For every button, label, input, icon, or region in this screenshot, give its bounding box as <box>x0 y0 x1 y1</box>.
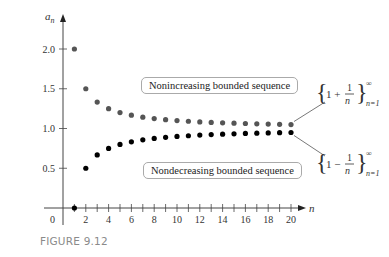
lower-sequence-point <box>254 131 259 136</box>
svg-text:∞: ∞ <box>366 79 372 88</box>
lower-sequence-point <box>266 130 271 135</box>
upper-sequence-point <box>288 122 293 127</box>
upper-sequence-point <box>266 121 271 126</box>
x-tick-label: 20 <box>286 214 296 225</box>
x-tick-label: 4 <box>106 214 111 225</box>
lower-sequence-point <box>152 136 157 141</box>
upper-sequence-point <box>197 119 202 124</box>
upper-sequence-point <box>277 122 282 127</box>
upper-sequence-point <box>243 121 248 126</box>
lower-sequence-point <box>209 132 214 137</box>
upper-sequence-point <box>117 110 122 115</box>
upper-sequence-point <box>174 118 179 123</box>
svg-text:n: n <box>345 165 350 176</box>
upper-sequence-point <box>106 106 111 111</box>
x-tick-label: 18 <box>263 214 273 225</box>
upper-sequence-point <box>209 120 214 125</box>
upper-sequence-point <box>72 46 77 51</box>
lower-sequence-point <box>163 135 168 140</box>
svg-text:n: n <box>345 95 350 106</box>
lower-sequence-point <box>106 146 111 151</box>
y-axis-label: an <box>45 10 55 25</box>
lower-sequence-point <box>243 131 248 136</box>
lower-sequence-point <box>72 205 77 210</box>
lower-formula-glyph: { 1 − 1 n } ∞ n=1 <box>316 146 388 182</box>
nondecreasing-label: Nondecreasing bounded sequence <box>143 162 302 179</box>
y-axis-arrow-icon <box>60 14 66 22</box>
svg-text:1 +: 1 + <box>326 88 340 100</box>
upper-sequence-point <box>129 113 134 118</box>
x-tick-label: 6 <box>129 214 134 225</box>
y-tick-label: 0.5 <box>43 163 56 174</box>
upper-sequence-point <box>163 117 168 122</box>
origin-label: 0 <box>50 214 55 225</box>
x-tick-label: 2 <box>83 214 88 225</box>
lower-sequence-point <box>197 132 202 137</box>
upper-sequence-point <box>83 86 88 91</box>
y-tick-label: 2.0 <box>43 44 56 55</box>
x-axis-arrow-icon <box>298 205 306 211</box>
x-tick-label: 10 <box>172 214 182 225</box>
upper-sequence-point <box>231 121 236 126</box>
svg-text:1: 1 <box>347 152 352 163</box>
upper-formula-glyph: { 1 + 1 n } ∞ n=1 <box>316 76 388 112</box>
figure: ann024681012141618200.51.01.52.0 Nonincr… <box>0 0 389 257</box>
lower-sequence-point <box>186 133 191 138</box>
lower-sequence-point <box>129 139 134 144</box>
svg-text:n=1: n=1 <box>366 99 379 108</box>
x-tick-label: 8 <box>152 214 157 225</box>
nonincreasing-label: Nonincreasing bounded sequence <box>141 77 298 94</box>
upper-sequence-point <box>152 116 157 121</box>
upper-sequence-point <box>220 120 225 125</box>
lower-sequence-point <box>83 166 88 171</box>
x-tick-label: 14 <box>218 214 228 225</box>
upper-sequence-point <box>254 121 259 126</box>
x-tick-label: 16 <box>240 214 250 225</box>
upper-sequence-point <box>140 115 145 120</box>
svg-text:1: 1 <box>347 82 352 93</box>
svg-text:n=1: n=1 <box>366 169 379 178</box>
figure-caption: FIGURE 9.12 <box>40 235 108 247</box>
lower-sequence-point <box>117 142 122 147</box>
lower-sequence-point <box>288 130 293 135</box>
lower-sequence-point <box>95 152 100 157</box>
lower-sequence-point <box>140 137 145 142</box>
lower-sequence-point <box>231 131 236 136</box>
scatter-plot: ann024681012141618200.51.01.52.0 <box>0 0 389 257</box>
x-axis-label: n <box>309 202 315 214</box>
upper-sequence-point <box>186 119 191 124</box>
x-tick-label: 12 <box>195 214 205 225</box>
svg-text:∞: ∞ <box>366 149 372 158</box>
lower-sequence-point <box>174 134 179 139</box>
lower-sequence-point <box>220 132 225 137</box>
lower-sequence-point <box>277 130 282 135</box>
y-tick-label: 1.0 <box>43 123 56 134</box>
svg-text:1 −: 1 − <box>326 158 340 170</box>
upper-sequence-point <box>95 99 100 104</box>
y-tick-label: 1.5 <box>43 83 56 94</box>
